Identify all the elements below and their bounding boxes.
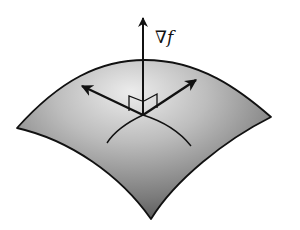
function-symbol: f: [167, 27, 173, 47]
gradient-diagram: [0, 0, 300, 230]
nabla-symbol: ∇: [155, 27, 167, 47]
gradient-label: ∇f: [155, 29, 173, 46]
